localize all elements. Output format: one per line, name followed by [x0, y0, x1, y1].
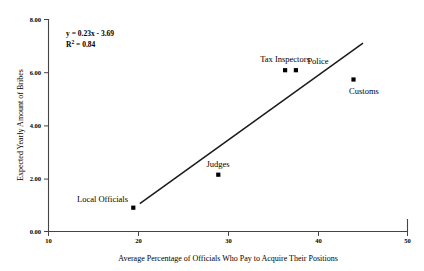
label-tax-inspectors: Tax Inspectors — [260, 54, 310, 64]
data-point-customs[interactable] — [351, 77, 355, 81]
y-axis-title: Expected Yearly Amount of Bribes — [16, 69, 25, 181]
label-police: Police — [307, 56, 328, 66]
scatter-chart-figure: 8.00 6.00 4.00 2.00 0.00 10 20 30 40 50 … — [0, 0, 424, 271]
label-customs: Customs — [349, 86, 379, 96]
x-axis-title: Average Percentage of Officials Who Pay … — [118, 254, 338, 263]
label-judges: Judges — [206, 159, 229, 169]
regression-equation: y = 0.23x - 3.69 — [66, 29, 114, 38]
y-tick-label-4: 4.00 — [30, 122, 41, 129]
label-local-officials: Local Officials — [77, 194, 128, 204]
data-point-local-officials[interactable] — [131, 206, 135, 210]
y-tick-label-6: 6.00 — [30, 69, 41, 76]
y-tick-label-8: 8.00 — [30, 16, 41, 23]
chart-svg: 8.00 6.00 4.00 2.00 0.00 10 20 30 40 50 … — [0, 0, 424, 271]
x-tick-label-20: 20 — [135, 237, 142, 244]
data-point-judges[interactable] — [216, 173, 220, 177]
data-point-police[interactable] — [294, 68, 298, 72]
x-tick-label-40: 40 — [315, 237, 322, 244]
data-point-tax-inspectors[interactable] — [283, 68, 287, 72]
chart-background — [0, 0, 424, 271]
r-squared-text: R2 = 0.84 — [66, 39, 96, 49]
y-tick-label-2: 2.00 — [30, 175, 41, 182]
r-squared-suffix: = 0.84 — [74, 40, 95, 49]
x-tick-label-10: 10 — [45, 237, 52, 244]
x-tick-label-30: 30 — [225, 237, 232, 244]
y-tick-label-0: 0.00 — [30, 228, 41, 235]
x-tick-label-50: 50 — [404, 237, 411, 244]
